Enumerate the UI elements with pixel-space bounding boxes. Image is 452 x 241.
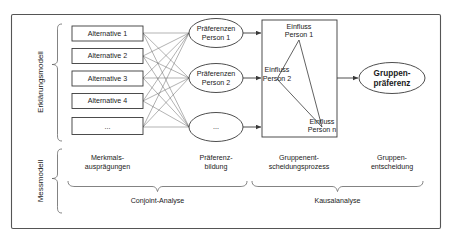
preference-ellipse: Präferenzen Person 2 [189, 64, 243, 93]
stage-label-line1: Gruppen- [377, 154, 408, 162]
brace-causal-analysis [252, 181, 423, 192]
alternative-box: Alternative 4 [72, 94, 143, 109]
preference-label-line2: Person 2 [202, 79, 230, 87]
brace-measurement-model [52, 149, 62, 213]
alternative-box: Alternative 3 [72, 71, 143, 86]
influence-label-line1: Einfluss [265, 66, 290, 74]
alternative-label: Alternative 4 [88, 97, 127, 105]
stage-label: Merkmals- ausprägungen [85, 154, 130, 171]
brace-conjoint-analysis [68, 181, 247, 192]
method-label-causal: Kausalanalyse [314, 197, 360, 205]
stage-label: Präferenz- bildung [199, 154, 233, 171]
alternative-box: Alternative 2 [72, 49, 143, 64]
influence-label-line2: Person 2 [263, 75, 291, 83]
stage-label: Gruppenent- scheidungsprozess [269, 154, 330, 171]
alternative-box: Alternative 1 [72, 26, 143, 41]
alternative-label: Alternative 1 [88, 30, 127, 38]
alternative-label: Alternative 3 [88, 75, 127, 83]
influence-label-line2: Person 1 [285, 31, 313, 39]
stage-label-line2: ausprägungen [85, 163, 130, 171]
group-preference-label-line1: Gruppen- [374, 69, 411, 78]
preference-label-line1: Präferenzen [197, 70, 236, 78]
influence-label-line1: Einfluss [287, 23, 312, 31]
brace-explanation-model [52, 24, 62, 141]
label-explanation-model: Erklärungsmodell [36, 51, 45, 113]
preference-ellipse: ... [189, 113, 243, 142]
label-measurement-model: Messmodell [36, 159, 45, 202]
stage-label-line2: scheidungsprozess [269, 163, 330, 171]
alternative-box: ... [72, 118, 143, 135]
stage-label: Gruppen- entscheidung [371, 154, 413, 171]
stage-label-line2: entscheidung [371, 163, 413, 171]
influence-box: Einfluss Person 1 Einfluss Person 2 Einf… [262, 20, 337, 137]
stage-label-line1: Gruppenent- [279, 154, 319, 162]
stage-label-line1: Präferenz- [199, 154, 233, 162]
influence-label-line1: Einfluss [310, 118, 335, 126]
group-preference-label-line2: präferenz [374, 79, 411, 88]
diagram-canvas: Erklärungsmodell Messmodell [0, 0, 452, 241]
mesh-connections [143, 33, 189, 127]
preference-label-line1: ... [213, 123, 219, 131]
preference-label-line1: Präferenzen [197, 25, 236, 33]
preference-ellipse: Präferenzen Person 1 [189, 19, 243, 48]
preference-label-line2: Person 1 [202, 34, 230, 42]
alternative-label: ... [105, 123, 111, 131]
stage-label-line1: Merkmals- [91, 154, 125, 162]
influence-label-line2: Person n [308, 126, 336, 134]
stage-label-line2: bildung [205, 163, 228, 171]
group-preference-ellipse: Gruppen- präferenz [359, 63, 425, 94]
method-label-conjoint: Conjoint-Analyse [131, 197, 185, 205]
alternative-label: Alternative 2 [88, 52, 127, 60]
